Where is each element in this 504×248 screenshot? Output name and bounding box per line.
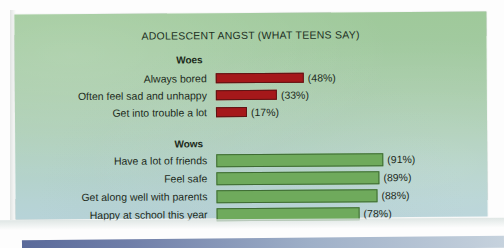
bar-value: (48%): [308, 70, 336, 85]
bar-label: Get along well with parents: [15, 189, 207, 204]
bar-have-a-lot-of-friends: [216, 153, 383, 167]
bottom-color-band: [22, 236, 504, 248]
bar-value: (33%): [281, 88, 309, 103]
bar-row: Feel safe (89%): [15, 170, 487, 190]
bar-value: (91%): [387, 152, 415, 167]
bar-value: (78%): [364, 206, 392, 221]
group-heading-wows: Wows: [15, 138, 203, 150]
bar-get-along-well-with-parents: [216, 189, 377, 203]
bar-label: Feel safe: [15, 171, 207, 186]
bar-label: Often feel sad and unhappy: [15, 88, 207, 103]
scanned-page: ADOLESCENT ANGST (WHAT TEENS SAY) Woes A…: [0, 0, 504, 248]
bar-always-bored: [216, 73, 304, 84]
bar-happy-at-school-this-year: [217, 207, 360, 221]
bar-label: Always bored: [15, 71, 207, 86]
bar-row: Get along well with parents (88%): [15, 188, 487, 208]
bar-value: (88%): [381, 188, 409, 203]
bar-row: Get into trouble a lot (17%): [15, 104, 487, 124]
bar-value: (17%): [251, 105, 279, 120]
bar-get-into-trouble-a-lot: [216, 107, 247, 117]
bar-label: Happy at school this year: [16, 207, 208, 222]
bar-often-feel-sad-and-unhappy: [216, 90, 277, 100]
bar-label: Get into trouble a lot: [15, 105, 207, 120]
bar-label: Have a lot of friends: [15, 153, 207, 168]
group-heading-woes: Woes: [15, 54, 203, 66]
bar-value: (89%): [383, 170, 411, 185]
bar-feel-safe: [216, 171, 379, 185]
bar-row: Happy at school this year (78%): [16, 206, 488, 226]
bar-row: Have a lot of friends (91%): [15, 152, 487, 172]
chart-panel: ADOLESCENT ANGST (WHAT TEENS SAY) Woes A…: [14, 12, 487, 220]
chart-title: ADOLESCENT ANGST (WHAT TEENS SAY): [14, 28, 486, 43]
